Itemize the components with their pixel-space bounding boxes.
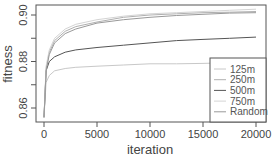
x-axis: 05000100001500020000 — [41, 122, 271, 140]
x-tick-label: 0 — [41, 128, 47, 140]
x-tick-label: 5000 — [85, 128, 109, 140]
fitness-line-chart: 0.860.880.90 05000100001500020000 fitnes… — [0, 0, 273, 161]
legend: 125m250m500m750mRandom — [210, 58, 268, 122]
legend-label: 750m — [230, 96, 255, 107]
legend-label: Random — [230, 106, 268, 117]
y-tick-label: 0.90 — [17, 4, 29, 25]
y-axis-label: fitness — [0, 45, 15, 83]
legend-label: 125m — [230, 64, 255, 75]
x-tick-label: 20000 — [241, 128, 272, 140]
y-tick-label: 0.88 — [17, 51, 29, 72]
x-axis-label: iteration — [127, 142, 173, 157]
x-tick-label: 10000 — [135, 128, 166, 140]
legend-label: 500m — [230, 85, 255, 96]
legend-label: 250m — [230, 74, 255, 85]
x-tick-label: 15000 — [188, 128, 219, 140]
y-tick-label: 0.86 — [17, 97, 29, 118]
y-axis: 0.860.880.90 — [17, 4, 36, 118]
